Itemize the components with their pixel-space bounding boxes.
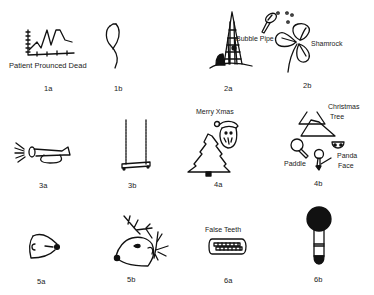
panel-number-1a: 1a — [44, 85, 52, 93]
panel-number-5b: 5b — [127, 276, 135, 284]
shamrock-drawing-icon — [272, 22, 322, 74]
line-chart-drawing-icon — [25, 26, 75, 58]
panel-number-2b: 2b — [303, 82, 311, 90]
caption-christmas: Christmas — [328, 103, 360, 110]
paddle-drawing-icon — [290, 138, 312, 160]
caption-shamrock: Shamrock — [311, 40, 343, 47]
panel-number-1b: 1b — [114, 85, 122, 93]
caption-false-teeth: False Teeth — [205, 226, 241, 233]
panda-face-drawing-icon — [330, 140, 346, 152]
panel-number-3b: 3b — [128, 182, 136, 190]
reindeer-head-drawing-icon — [108, 214, 172, 272]
panel-number-5a: 5a — [37, 278, 45, 286]
false-teeth-drawing-icon — [208, 236, 248, 258]
caption-face: Face — [338, 162, 354, 169]
caption-bubble-pipe: Bubble Pipe — [236, 35, 274, 42]
caption-merry-xmas: Merry Xmas — [196, 108, 234, 115]
caption-patient-pronounced-dead: Patient Prounced Dead — [9, 62, 87, 70]
brush-drawing-icon — [304, 206, 334, 268]
panel-number-6a: 6a — [224, 277, 232, 285]
horn-drawing-icon — [14, 141, 72, 167]
panel-number-2a: 2a — [224, 85, 232, 93]
mouse-head-drawing-icon — [27, 232, 63, 260]
panel-number-6b: 6b — [314, 276, 322, 284]
christmas-tree-outline-icon — [297, 110, 337, 140]
panel-number-4b: 4b — [314, 180, 322, 188]
caption-panda: Panda — [337, 152, 357, 159]
panel-number-3a: 3a — [39, 182, 47, 190]
swing-drawing-icon — [118, 118, 154, 174]
christmas-tree-drawing-icon — [186, 132, 234, 178]
caption-paddle: Paddle — [284, 160, 306, 167]
stethoscope-drawing-icon — [104, 22, 124, 72]
panel-number-4a: 4a — [214, 181, 222, 189]
